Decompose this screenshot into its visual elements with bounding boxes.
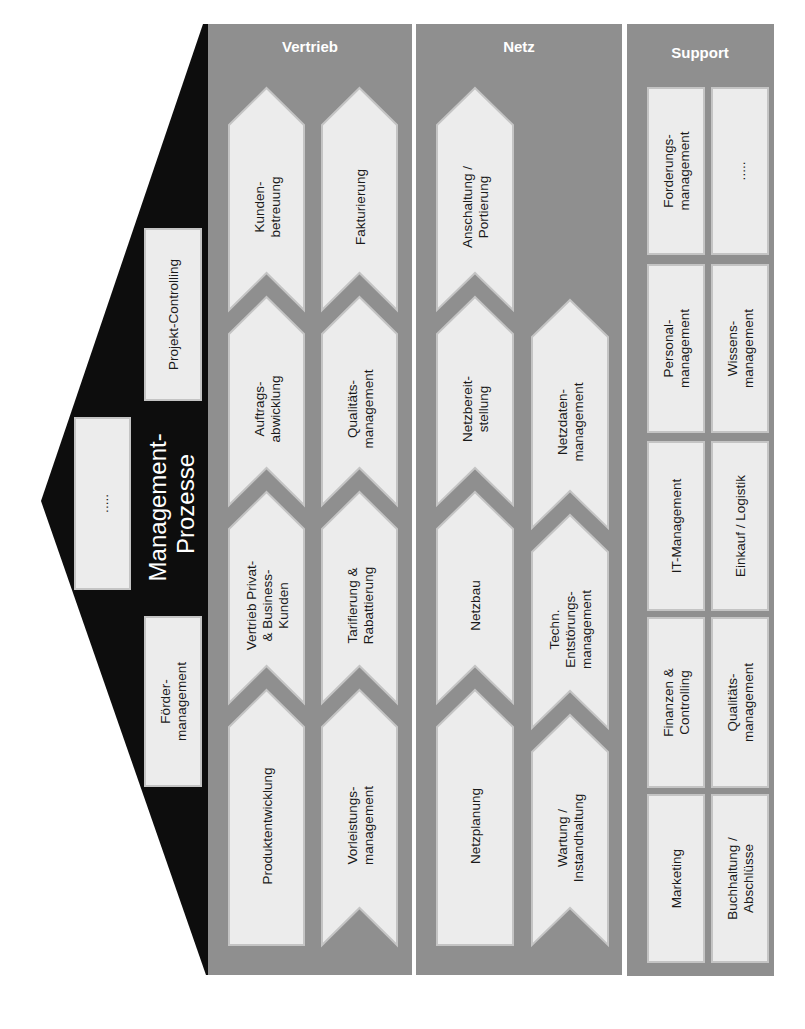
netz-step-label-line: Portierung: [476, 176, 491, 238]
support-item: Forderungs-management: [648, 88, 704, 254]
support-item: Buchhaltung /Abschlüsse: [712, 795, 768, 962]
vertrieb-step-label-line: abwicklung: [268, 376, 283, 443]
support-item-label-line: management: [677, 309, 692, 388]
netz-step-label-line: management: [571, 382, 586, 461]
vertrieb-step-label-line: Rabattierung: [361, 567, 376, 644]
support-item-label: IT-Management: [669, 478, 684, 573]
support-item: IT-Management: [648, 442, 704, 610]
support-item-box: [712, 618, 768, 787]
vertrieb-step-label-line: betreuung: [268, 177, 283, 238]
vertrieb-step-label-line: & Business-: [260, 569, 275, 641]
support-item-label-line: Buchhaltung /: [725, 837, 740, 920]
netz-step-label-line: Instandhaltung: [571, 794, 586, 883]
support-item-label: Forderungs-management: [661, 131, 692, 210]
netz-step-label-line: Wartung /: [555, 809, 570, 867]
netz-step-label-line: Anschaltung /: [460, 166, 475, 248]
management-box-placeholder: .....: [75, 418, 130, 589]
support-item-label-line: IT-Management: [669, 478, 684, 573]
support-item-label-line: Finanzen &: [661, 668, 676, 736]
management-box-label: Projekt-Controlling: [166, 259, 181, 370]
vertrieb-step-label-line: Fakturierung: [353, 169, 368, 245]
support-item: Einkauf / Logistik: [712, 442, 768, 610]
netz-process-step: Netzplanung: [437, 690, 513, 945]
management-box-projekt: Projekt-Controlling: [145, 229, 201, 400]
vertrieb-step-label-line: Kunden: [276, 582, 291, 629]
management-box-label: .....: [96, 494, 111, 513]
vertrieb-step-label: Tarifierung &Rabattierung: [345, 567, 376, 644]
vertrieb-step-label-line: management: [361, 369, 376, 448]
support-item-label-line: Einkauf / Logistik: [733, 475, 748, 577]
vertrieb-lane-2: Vorleistungs-managementTarifierung &Raba…: [322, 88, 397, 945]
management-box-label-line: Förder-: [158, 679, 173, 723]
netz-step-label-line: Netzbereit-: [460, 376, 475, 442]
vertrieb-step-label-line: Auftrags-: [252, 382, 267, 437]
vertrieb-step-label-line: Produktentwicklung: [260, 767, 275, 884]
netz-step-label-line: stellung: [476, 386, 491, 433]
netz-step-label: Netzbereit-stellung: [460, 376, 491, 442]
netz-lane-2: Wartung /InstandhaltungTechn.Entstörungs…: [532, 300, 608, 945]
vertrieb-step-label: Qualitäts-management: [345, 369, 376, 448]
vertrieb-step-label-line: Vertrieb Privat-: [244, 561, 259, 650]
support-item-label-line: Marketing: [669, 849, 684, 908]
netz-step-label-line: Netzplanung: [468, 788, 483, 864]
netz-step-label-line: Netzdaten-: [555, 389, 570, 455]
netz-step-label-line: management: [579, 590, 594, 669]
vertrieb-step-label: Auftrags-abwicklung: [252, 376, 283, 443]
support-item-label: Einkauf / Logistik: [733, 475, 748, 577]
support-item-box: [648, 618, 704, 787]
vertrieb-step-label-line: Tarifierung &: [345, 568, 360, 644]
netz-step-label: Netzplanung: [468, 788, 483, 864]
support-item: Marketing: [648, 795, 704, 962]
netz-header: Netz: [503, 38, 535, 55]
netz-step-label: Netzdaten-management: [555, 382, 586, 461]
netz-step-label: Netzbau: [468, 580, 483, 630]
chevron-shape: [322, 690, 397, 945]
support-item-label: Buchhaltung /Abschlüsse: [725, 837, 756, 920]
management-box-label-line: .....: [96, 494, 111, 513]
support-item-label-line: Controlling: [677, 670, 692, 735]
vertrieb-step-label-line: Vorleistungs-: [345, 786, 360, 864]
netz-step-label-line: Techn.: [547, 610, 562, 650]
support-item-label-line: .....: [733, 162, 748, 181]
vertrieb-process-step: Produktentwicklung: [229, 690, 304, 945]
vertrieb-step-label: Fakturierung: [353, 169, 368, 245]
support-item-box: [712, 265, 768, 432]
support-item-label-line: management: [677, 131, 692, 210]
vertrieb-step-label-line: management: [361, 786, 376, 865]
vertrieb-step-label: Kunden-betreuung: [252, 177, 283, 238]
management-title-line2: Prozesse: [172, 454, 199, 554]
vertrieb-header: Vertrieb: [282, 38, 338, 55]
vertrieb-process-step: Vorleistungs-management: [322, 690, 397, 945]
support-item: Wissens-management: [712, 265, 768, 432]
vertrieb-lane-1: ProduktentwicklungVertrieb Privat-& Busi…: [229, 88, 304, 945]
support-item-box: [712, 795, 768, 962]
support-item-box: [648, 88, 704, 254]
support-item-label: Qualitäts-management: [725, 663, 756, 742]
support-item: .....: [712, 88, 768, 254]
management-box-label-line: Projekt-Controlling: [166, 259, 181, 370]
support-item-label-line: Wissens-: [725, 321, 740, 377]
netz-step-label-line: Entstörungs-: [563, 591, 578, 668]
support-item: Personal-management: [648, 265, 704, 432]
management-box-foerder: Förder-management: [145, 617, 201, 786]
support-item: Finanzen &Controlling: [648, 618, 704, 787]
vertrieb-step-label: Vorleistungs-management: [345, 786, 376, 865]
support-header: Support: [671, 44, 729, 61]
support-item-label-line: Abschlüsse: [741, 844, 756, 913]
support-item: Qualitäts-management: [712, 618, 768, 787]
support-item-label: .....: [733, 162, 748, 181]
support-item-label: Marketing: [669, 849, 684, 908]
vertrieb-step-label-line: Qualitäts-: [345, 380, 360, 438]
support-item-label-line: management: [741, 663, 756, 742]
process-house-diagram: Förder-management.....Projekt-Controllin…: [0, 0, 805, 1029]
support-item-box: [648, 265, 704, 432]
support-item-label: Personal-management: [661, 309, 692, 388]
support-item-label-line: Personal-: [661, 320, 676, 378]
management-title-line1: Management-: [144, 433, 171, 581]
support-item-label-line: Qualitäts-: [725, 674, 740, 732]
netz-step-label: Anschaltung /Portierung: [460, 166, 491, 248]
management-box-label-line: management: [174, 662, 189, 741]
support-item-label-line: management: [741, 309, 756, 388]
management-box-rect: [145, 617, 201, 786]
netz-step-label-line: Netzbau: [468, 580, 483, 630]
